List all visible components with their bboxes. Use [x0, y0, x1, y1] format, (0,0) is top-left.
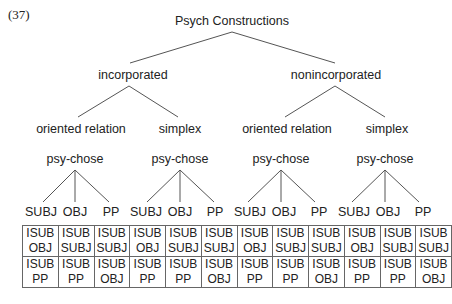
table-cell: ISUBSUBJ	[94, 226, 130, 257]
arg-subj: SUBJ	[130, 205, 162, 219]
arg-pp: PP	[103, 205, 120, 219]
arg-subj: SUBJ	[25, 205, 57, 219]
table-cell: ISUBOBJ	[201, 257, 237, 288]
table-cell: ISUBSUBJ	[58, 226, 94, 257]
table-cell: ISUBPP	[58, 257, 94, 288]
table-cell: ISUBPP	[273, 257, 309, 288]
table-cell: ISUBOBJ	[344, 226, 380, 257]
node-incorporated-simplex: simplex	[159, 122, 201, 136]
arg-obj: OBJ	[63, 205, 87, 219]
table-cell: ISUBPP	[166, 257, 202, 288]
arg-obj: OBJ	[376, 205, 400, 219]
table-cell: ISUBSUBJ	[166, 226, 202, 257]
table-row: ISUBOBJ ISUBSUBJ ISUBSUBJ ISUBOBJ ISUBSU…	[23, 226, 452, 257]
root-node: Psych Constructions	[175, 14, 289, 28]
table-cell: ISUBSUBJ	[416, 226, 452, 257]
table-cell: ISUBSUBJ	[273, 226, 309, 257]
edge-root-incorporated	[130, 32, 232, 63]
arg-pp: PP	[207, 205, 224, 219]
arg-obj: OBJ	[168, 205, 192, 219]
table-cell: ISUBSUBJ	[309, 226, 345, 257]
table-cell: ISUBSUBJ	[201, 226, 237, 257]
table-cell: ISUBPP	[130, 257, 166, 288]
role-table: ISUBOBJ ISUBSUBJ ISUBSUBJ ISUBOBJ ISUBSU…	[22, 225, 452, 288]
arg-obj: OBJ	[272, 205, 296, 219]
edge-incorporated-oriented	[78, 86, 129, 117]
table-cell: ISUBOBJ	[23, 226, 59, 257]
edge-root-nonincorporated	[232, 32, 335, 63]
verb-node: psy-chose	[152, 152, 209, 166]
verb-node: psy-chose	[253, 152, 310, 166]
node-incorporated: incorporated	[98, 68, 168, 82]
node-nonincorporated-oriented-relation: oriented relation	[242, 122, 332, 136]
edge-incorporated-simplex	[129, 86, 178, 117]
table-row: ISUBPP ISUBPP ISUBOBJ ISUBPP ISUBPP ISUB…	[23, 257, 452, 288]
verb-node: psy-chose	[357, 152, 414, 166]
table-cell: ISUBOBJ	[237, 226, 273, 257]
table-cell: ISUBOBJ	[416, 257, 452, 288]
arg-subj: SUBJ	[234, 205, 266, 219]
edge-nonincorporated-oriented	[285, 86, 335, 117]
table-cell: ISUBOBJ	[94, 257, 130, 288]
table-cell: ISUBPP	[23, 257, 59, 288]
table-cell: ISUBOBJ	[130, 226, 166, 257]
table-cell: ISUBSUBJ	[380, 226, 416, 257]
node-nonincorporated-simplex: simplex	[366, 122, 408, 136]
verb-node: psy-chose	[47, 152, 104, 166]
node-incorporated-oriented-relation: oriented relation	[36, 122, 126, 136]
table-cell: ISUBPP	[380, 257, 416, 288]
table-cell: ISUBPP	[237, 257, 273, 288]
table-cell: ISUBOBJ	[309, 257, 345, 288]
arg-pp: PP	[311, 205, 328, 219]
node-nonincorporated: nonincorporated	[291, 68, 381, 82]
arg-subj: SUBJ	[338, 205, 370, 219]
table-cell: ISUBPP	[344, 257, 380, 288]
edge-nonincorporated-simplex	[335, 86, 385, 117]
arg-pp: PP	[415, 205, 432, 219]
